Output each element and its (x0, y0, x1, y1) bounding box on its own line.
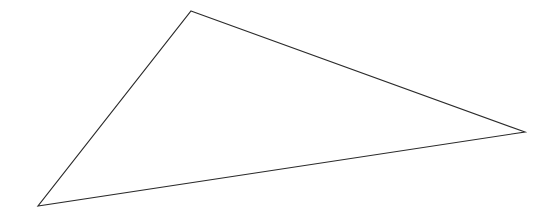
figure-canvas (0, 0, 549, 220)
triangle-svg (0, 0, 549, 220)
canvas-background (0, 0, 549, 220)
